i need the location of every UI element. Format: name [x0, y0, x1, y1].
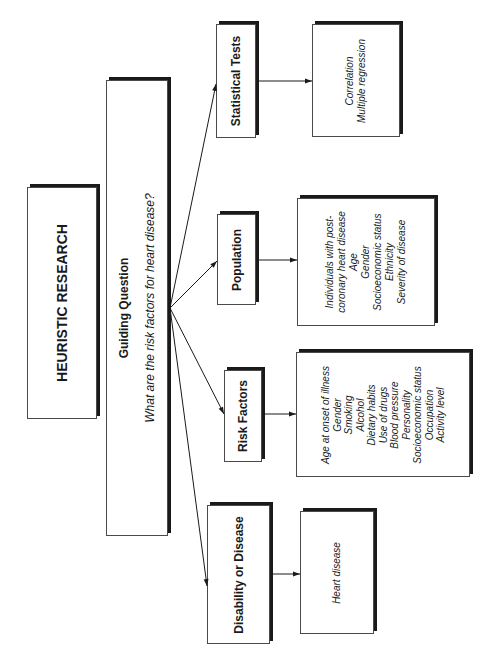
statistical-tests-list: Correlation Multiple regression — [344, 39, 368, 123]
guiding-question-heading: Guiding Question — [117, 258, 131, 359]
arrow-to-population — [170, 261, 217, 308]
risk-factors-label: Risk Factors — [236, 380, 250, 452]
list-item: Gender — [360, 245, 372, 278]
arrow-to-statistical-tests — [170, 84, 216, 308]
list-item: Multiple regression — [356, 39, 368, 123]
list-item: Occupation — [423, 389, 435, 440]
list-item: Activity level — [435, 387, 447, 442]
guiding-question-text: What are the risk factors for heart dise… — [143, 193, 157, 422]
risk-factors-box: Risk Factors — [224, 370, 262, 462]
list-item: Socioeconomic status — [412, 366, 424, 463]
guiding-question-box: Guiding Question What are the risk facto… — [106, 80, 168, 536]
arrow-to-risk-factors — [170, 308, 224, 414]
list-item: Use of drugs — [377, 386, 389, 443]
statistical-tests-box: Statistical Tests — [216, 24, 256, 138]
list-item: Gender — [331, 398, 343, 431]
heuristic-research-diagram: HEURISTIC RESEARCH Guiding Question What… — [0, 0, 486, 667]
disease-list-box: Heart disease — [300, 511, 374, 634]
disability-disease-box: Disability or Disease — [207, 505, 270, 644]
list-item: Personality — [400, 390, 412, 439]
list-item: Individuals with post- — [324, 216, 336, 309]
list-item: Dietary habits — [366, 384, 378, 445]
arrow-to-disability-disease — [170, 308, 207, 586]
population-list-box: Individuals with post- coronary heart di… — [297, 198, 435, 326]
list-item: Heart disease — [331, 542, 343, 604]
list-item: Correlation — [344, 56, 356, 105]
population-label: Population — [230, 229, 244, 291]
title-text: HEURISTIC RESEARCH — [54, 224, 70, 382]
list-item: Smoking — [343, 395, 355, 434]
list-item: Blood pressure — [389, 381, 401, 448]
list-item: Ethnicity — [384, 243, 396, 281]
statistical-tests-list-box: Correlation Multiple regression — [312, 24, 400, 137]
list-item: Alcohol — [354, 398, 366, 431]
risk-factors-list: Age at onset of illness Gender Smoking A… — [320, 366, 447, 464]
population-box: Population — [217, 214, 256, 305]
population-list: Individuals with post- coronary heart di… — [324, 211, 408, 313]
title-box: HEURISTIC RESEARCH — [27, 187, 97, 419]
disease-list: Heart disease — [331, 542, 343, 604]
disability-disease-label: Disability or Disease — [232, 516, 246, 633]
statistical-tests-label: Statistical Tests — [229, 36, 243, 126]
list-item: Age at onset of illness — [320, 366, 332, 464]
list-item: Socioeconomic status — [372, 213, 384, 310]
risk-factors-list-box: Age at onset of illness Gender Smoking A… — [296, 352, 470, 477]
list-item: coronary heart disease — [336, 211, 348, 313]
list-item: Age — [348, 253, 360, 271]
list-item: Severity of disease — [396, 220, 408, 305]
